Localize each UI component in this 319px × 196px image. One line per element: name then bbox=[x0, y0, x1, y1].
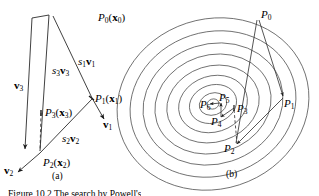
figure-container: P0(x0) P1(x1) P2(x2) P3(x3) v1 v2 v3 s1v… bbox=[0, 0, 319, 196]
panel-b-segment-p3-p4 bbox=[221, 108, 234, 117]
panel-b-label-P0: P0 bbox=[261, 9, 271, 21]
panel-a-label-P2: P2(x2) bbox=[43, 157, 70, 169]
panel-a-label-v1: v1 bbox=[103, 119, 112, 131]
panel-b-label-P2: P2 bbox=[224, 143, 234, 155]
panel-a-label-s2v2: s2v2 bbox=[62, 133, 79, 145]
panel-a-top-cap bbox=[32, 15, 49, 18]
panel-b-label-P4: P4 bbox=[211, 116, 221, 128]
panel-b-label-P1: P1 bbox=[284, 98, 294, 110]
panel-a-label-v3: v3 bbox=[14, 80, 23, 92]
panel-b-label-P6: P6 bbox=[200, 99, 210, 111]
panel-b-caption-label: (b) bbox=[226, 170, 237, 180]
panel-a-label-s3v3: s3v3 bbox=[52, 65, 69, 77]
panel-a-graphics bbox=[18, 15, 104, 172]
panel-a-label-P0: P0(x0) bbox=[98, 12, 125, 24]
panel-a-caption-label: (a) bbox=[52, 172, 63, 182]
panel-a-vector-v2 bbox=[18, 153, 40, 172]
panel-a-segment-s3v3 bbox=[40, 15, 49, 151]
panel-b-label-P3: P3 bbox=[237, 103, 247, 115]
panel-a-label-s1v1: s1v1 bbox=[78, 56, 95, 68]
panel-a-label-P3: P3(x3) bbox=[45, 107, 72, 119]
panel-a-label-P1: P1(x1) bbox=[95, 93, 122, 105]
figure-caption: Figure 10.2 The search by Powell's bbox=[8, 189, 141, 196]
panel-a-label-v2: v2 bbox=[4, 165, 13, 177]
panel-a-vector-v3 bbox=[25, 18, 32, 149]
panel-b-label-P5: P5 bbox=[219, 92, 229, 104]
